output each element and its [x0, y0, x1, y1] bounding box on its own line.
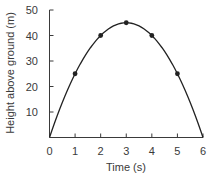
data-point	[98, 33, 103, 38]
data-point	[149, 33, 154, 38]
x-axis-label: Time (s)	[106, 161, 146, 173]
trajectory-curve	[50, 23, 204, 138]
x-tick-label: 2	[98, 145, 104, 157]
x-tick-label: 6	[200, 145, 206, 157]
x-tick-label: 0	[46, 145, 52, 157]
x-tick-label: 4	[149, 145, 155, 157]
x-tick-label: 5	[174, 145, 180, 157]
y-tick-label: 30	[26, 55, 38, 67]
x-tick-label: 3	[123, 145, 129, 157]
y-tick-label: 40	[26, 30, 38, 42]
data-point	[124, 20, 129, 25]
y-tick-label: 50	[26, 4, 38, 16]
y-axis-label: Height above ground (m)	[4, 12, 16, 134]
data-point	[73, 71, 78, 76]
y-tick-label: 10	[26, 106, 38, 118]
y-tick-label: 20	[26, 81, 38, 93]
x-tick-label: 1	[72, 145, 78, 157]
data-point-markers	[73, 20, 180, 76]
projectile-height-chart: 1020304050 0123456 Time (s) Height above…	[0, 0, 208, 176]
data-point	[175, 71, 180, 76]
